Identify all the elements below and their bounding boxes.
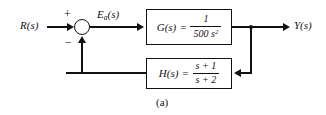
block-g-denominator: 500 s2 (190, 27, 221, 39)
wire-corner-to-sum (81, 43, 83, 73)
output-signal-label: Y(s) (294, 20, 312, 31)
wire-h-to-corner (66, 72, 146, 74)
error-signal-label-base: E (97, 8, 104, 20)
block-g-numerator: 1 (200, 14, 211, 26)
figure-caption: (a) (156, 96, 168, 108)
arrowhead-sum-to-g (137, 23, 144, 31)
summing-junction (74, 19, 90, 35)
figure-canvas: R(s) + − Ea(s) G(s) = 1 500 s2 Y(s) H( (0, 0, 326, 115)
arrowhead-into-h (234, 69, 241, 77)
block-feedback-path-h[interactable]: H(s) = s + 1 s + 2 (146, 58, 232, 89)
block-g-denominator-exponent: 2 (215, 28, 218, 35)
arrowhead-output (283, 23, 290, 31)
summing-junction-minus-sign: − (65, 36, 72, 48)
error-signal-label: Ea(s) (97, 9, 119, 21)
block-h-name: H(s) (159, 67, 179, 79)
block-g-denominator-base: 500 s (193, 28, 214, 39)
wire-takeoff-down (250, 26, 252, 73)
summing-junction-plus-sign: + (64, 8, 71, 20)
block-g-name: G(s) (157, 21, 177, 33)
block-h-fraction: s + 1 s + 2 (193, 61, 220, 85)
arrowhead-feedback-into-sum (78, 36, 86, 43)
block-h-equals: = (182, 67, 188, 79)
arrowhead-input-to-sum (67, 23, 74, 31)
block-h-denominator: s + 2 (193, 74, 220, 86)
block-g-equals: = (180, 21, 186, 33)
block-g-fraction: 1 500 s2 (190, 14, 221, 39)
wire-takeoff-to-h (241, 72, 252, 74)
block-forward-path-g[interactable]: G(s) = 1 500 s2 (146, 9, 232, 45)
input-signal-label: R(s) (20, 20, 38, 31)
block-h-numerator: s + 1 (193, 61, 220, 73)
wire-g-to-output (232, 26, 286, 28)
wire-sum-to-g (90, 26, 140, 28)
error-signal-label-tail: (s) (107, 8, 119, 20)
